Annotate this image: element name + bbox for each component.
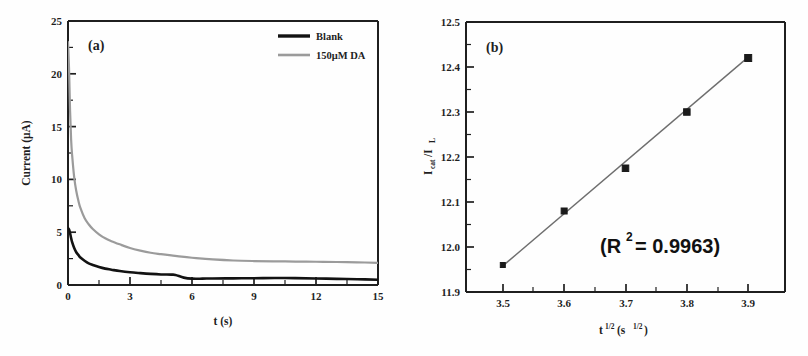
panel-a-xticklabels: 0 3 6 9 12 15 <box>65 290 384 302</box>
panel-b: 11.9 12.0 12.1 12.2 12.3 12.4 12.5 <box>404 0 808 356</box>
r-squared-annotation: (R 2 = 0.9963) <box>600 230 720 257</box>
xtick-label: 15 <box>373 290 385 302</box>
panel-a-label: (a) <box>88 38 105 54</box>
legend-label-blank: Blank <box>316 31 343 42</box>
panel-a-plot: 0 5 10 15 20 25 0 <box>0 0 404 356</box>
annotation-superscript: 2 <box>626 230 633 244</box>
data-point-marker <box>745 55 752 62</box>
panel-b-xaxis-title: t 1/2 (s 1/2 ) <box>599 322 648 337</box>
panel-b-xticks <box>503 284 748 292</box>
xaxis-title-exp: 1/2 <box>605 322 615 331</box>
ytick-label: 0 <box>57 279 63 291</box>
xaxis-title-unit-open: (s <box>617 324 626 337</box>
xtick-label: 6 <box>189 290 195 302</box>
ytick-label: 25 <box>51 15 63 27</box>
data-point-marker <box>684 109 691 116</box>
xtick-label: 9 <box>251 290 257 302</box>
ytick-label: 12.5 <box>441 16 461 28</box>
ytick-label: 12.4 <box>441 61 461 73</box>
yaxis-title-sub2: L <box>428 138 437 143</box>
ytick-label: 12.2 <box>441 151 461 163</box>
xtick-label: 3.5 <box>496 297 510 309</box>
panel-a: 0 5 10 15 20 25 0 <box>0 0 404 356</box>
xaxis-title-base: t <box>599 324 603 336</box>
yaxis-title-mid: /I <box>422 149 434 158</box>
ytick-label: 15 <box>51 121 63 133</box>
legend-label-da: 150μM DA <box>316 50 366 61</box>
figure-container: 0 5 10 15 20 25 0 <box>0 0 808 356</box>
panel-b-yticklabels: 11.9 12.0 12.1 12.2 12.3 12.4 12.5 <box>441 16 461 298</box>
xtick-label: 12 <box>311 290 323 302</box>
xaxis-title-unit-close: ) <box>644 324 648 337</box>
panel-a-legend: Blank 150μM DA <box>278 31 366 61</box>
ytick-label: 12.0 <box>441 241 461 253</box>
ytick-label: 5 <box>57 226 63 238</box>
ytick-label: 12.1 <box>441 196 460 208</box>
panel-a-series-group <box>68 42 378 280</box>
xtick-label: 3.7 <box>619 297 633 309</box>
series-line-blank <box>68 228 378 280</box>
xaxis-title-unit-exp: 1/2 <box>633 322 643 331</box>
data-point-marker <box>622 165 629 172</box>
panel-b-yaxis-title: I cat /I L <box>422 138 437 175</box>
ytick-label: 20 <box>51 68 63 80</box>
xtick-label: 3.8 <box>680 297 694 309</box>
ytick-label: 11.9 <box>441 286 460 298</box>
panel-a-yticklabels: 0 5 10 15 20 25 <box>51 15 63 291</box>
annotation-suffix: = 0.9963) <box>635 235 720 257</box>
annotation-prefix: (R <box>600 235 622 257</box>
series-line-150um-da <box>68 42 378 263</box>
ytick-label: 12.3 <box>441 106 461 118</box>
xtick-label: 3.9 <box>741 297 755 309</box>
panel-a-xaxis-title: t (s) <box>214 315 233 328</box>
panel-b-axes <box>466 22 785 292</box>
yaxis-title-base: I <box>422 170 434 175</box>
ytick-label: 10 <box>51 173 63 185</box>
data-point-marker <box>561 208 567 214</box>
panel-b-xticklabels: 3.5 3.6 3.7 3.8 3.9 <box>496 297 755 309</box>
panel-b-label: (b) <box>486 40 503 56</box>
panel-b-yticks <box>466 22 474 292</box>
panel-b-plot: 11.9 12.0 12.1 12.2 12.3 12.4 12.5 <box>404 0 808 356</box>
panel-a-yaxis-title: Current (μA) <box>20 120 33 186</box>
xtick-label: 3 <box>127 290 133 302</box>
data-point-marker <box>500 263 505 268</box>
yaxis-title-sub1: cat <box>428 159 437 169</box>
xtick-label: 3.6 <box>557 297 571 309</box>
xtick-label: 0 <box>65 290 71 302</box>
